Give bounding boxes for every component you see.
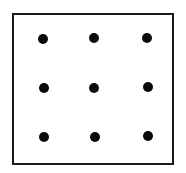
dot-r2-c2 — [89, 83, 99, 93]
dot-r3-c3 — [143, 131, 153, 141]
dot-r1-c2 — [89, 33, 99, 43]
dot-r2-c1 — [39, 83, 49, 93]
dot-r3-c1 — [39, 132, 49, 142]
dot-r1-c3 — [142, 33, 152, 43]
dot-r1-c1 — [38, 34, 48, 44]
dot-r3-c2 — [90, 132, 100, 142]
dot-r2-c3 — [143, 82, 153, 92]
